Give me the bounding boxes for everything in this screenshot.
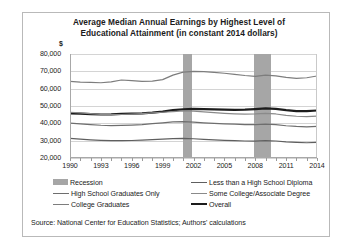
chart-legend: RecessionLess than a High School Diploma… (53, 179, 315, 212)
legend-swatch-line (53, 193, 69, 194)
legend-item[interactable]: College Graduates (53, 201, 129, 209)
y-axis-tick-label: 40,000 (27, 119, 61, 127)
x-axis-tick-mark (276, 158, 277, 161)
plot-area (70, 54, 317, 158)
source-note: Source: National Center for Education St… (31, 219, 246, 227)
legend-item[interactable]: Overall (191, 201, 231, 209)
x-axis-tick-mark (204, 158, 205, 161)
x-axis-tick-mark (194, 158, 195, 161)
chart-title-line-2: Educational Attainment (in constant 2014… (80, 28, 277, 38)
x-axis-tick-mark (70, 158, 71, 161)
x-axis-tick-mark (80, 158, 81, 161)
y-axis-tick-label: 80,000 (27, 50, 61, 58)
x-axis-tick-mark (245, 158, 246, 161)
x-axis-tick-mark (111, 158, 112, 161)
y-axis-tick-label: 50,000 (27, 102, 61, 110)
legend-item[interactable]: Recession (53, 179, 103, 187)
chart-title: Average Median Annual Earnings by Highes… (41, 17, 317, 39)
legend-item-label: Overall (209, 201, 231, 209)
legend-item[interactable]: Less than a High School Diploma (191, 179, 312, 187)
series-line (70, 138, 317, 142)
series-line (70, 71, 317, 82)
y-axis-tick-label: 20,000 (27, 154, 61, 162)
x-axis-tick-mark (101, 158, 102, 161)
legend-item-label: High School Graduates Only (71, 190, 160, 198)
chart-title-line-1: Average Median Annual Earnings by Highes… (73, 17, 285, 27)
x-axis-tick-mark (255, 158, 256, 161)
x-axis-tick-label: 2011 (271, 162, 301, 170)
x-axis-tick-mark (307, 158, 308, 161)
x-axis-tick-label: 1990 (55, 162, 85, 170)
x-axis-tick-mark (142, 158, 143, 161)
chart-figure: Average Median Annual Earnings by Highes… (22, 12, 330, 237)
legend-swatch-line (53, 204, 69, 205)
legend-swatch-line (191, 193, 207, 194)
x-axis-tick-mark (317, 158, 318, 161)
x-axis-tick-mark (91, 158, 92, 161)
x-axis-tick-mark (132, 158, 133, 161)
plot-right-border (316, 54, 317, 158)
legend-item-label: Some College/Associate Degree (209, 190, 310, 198)
x-axis-tick-label: 1996 (117, 162, 147, 170)
y-axis-tick-label: 60,000 (27, 85, 61, 93)
x-axis-tick-mark (235, 158, 236, 161)
y-axis-tick-label: 30,000 (27, 137, 61, 145)
x-axis-tick-label: 2002 (179, 162, 209, 170)
x-axis-tick-mark (214, 158, 215, 161)
x-axis-tick-mark (224, 158, 225, 161)
x-axis-tick-mark (163, 158, 164, 161)
legend-swatch-line (191, 182, 207, 183)
series-line (70, 122, 317, 127)
x-axis-tick-label: 1999 (148, 162, 178, 170)
x-axis-tick-mark (286, 158, 287, 161)
x-axis-tick-label: 2008 (240, 162, 270, 170)
x-axis-tick-mark (121, 158, 122, 161)
y-axis-tick-label: 70,000 (27, 67, 61, 75)
legend-swatch-box (53, 179, 68, 185)
y-axis-line (70, 54, 71, 158)
legend-item[interactable]: High School Graduates Only (53, 190, 160, 198)
x-axis-tick-mark (152, 158, 153, 161)
legend-item[interactable]: Some College/Associate Degree (191, 190, 310, 198)
series-lines (70, 54, 317, 158)
legend-item-label: Recession (70, 179, 103, 187)
legend-swatch-line (191, 203, 207, 205)
x-axis-tick-mark (183, 158, 184, 161)
legend-item-label: Less than a High School Diploma (209, 179, 312, 187)
legend-item-label: College Graduates (71, 201, 129, 209)
y-axis-label: $ (59, 40, 63, 47)
x-axis-tick-label: 2005 (209, 162, 239, 170)
x-axis-tick-mark (266, 158, 267, 161)
x-axis-tick-label: 1993 (86, 162, 116, 170)
x-axis-tick-mark (296, 158, 297, 161)
x-axis-tick-mark (173, 158, 174, 161)
x-axis-tick-label: 2014 (302, 162, 330, 170)
